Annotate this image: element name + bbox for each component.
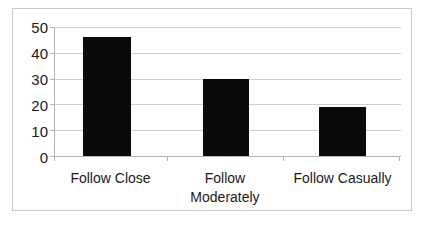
bar-follow-casually: [319, 107, 366, 156]
value-axis-label-50: 50: [31, 20, 48, 35]
category-label-line: Moderately: [167, 188, 283, 207]
category-label-follow-moderately: Follow Moderately: [167, 169, 283, 207]
value-axis-label-20: 20: [31, 98, 48, 113]
category-label-line: Follow: [167, 169, 283, 188]
chart-frame: 50 40 30 20 10 0: [12, 8, 412, 211]
value-axis-label-40: 40: [31, 46, 48, 61]
category-tick-1: [54, 156, 55, 161]
bar-series: [54, 19, 402, 166]
value-axis-label-10: 10: [31, 124, 48, 139]
plot-area: [54, 19, 402, 166]
bar-follow-close: [83, 37, 131, 156]
category-label-follow-casually: Follow Casually: [283, 169, 402, 188]
value-axis-label-0: 0: [40, 150, 48, 165]
category-label-follow-close: Follow Close: [54, 169, 167, 188]
category-label-line: Follow Close: [54, 169, 167, 188]
category-tick-4: [399, 156, 400, 161]
chart-screenshot: 50 40 30 20 10 0: [0, 0, 427, 225]
category-label-line: Follow Casually: [283, 169, 402, 188]
category-tick-3: [283, 156, 284, 161]
bar-follow-moderately: [203, 79, 249, 156]
category-axis-labels: Follow Close Follow Moderately Follow Ca…: [54, 169, 402, 211]
category-tick-2: [167, 156, 168, 161]
value-axis-labels: 50 40 30 20 10 0: [13, 19, 54, 166]
value-axis-label-30: 30: [31, 72, 48, 87]
